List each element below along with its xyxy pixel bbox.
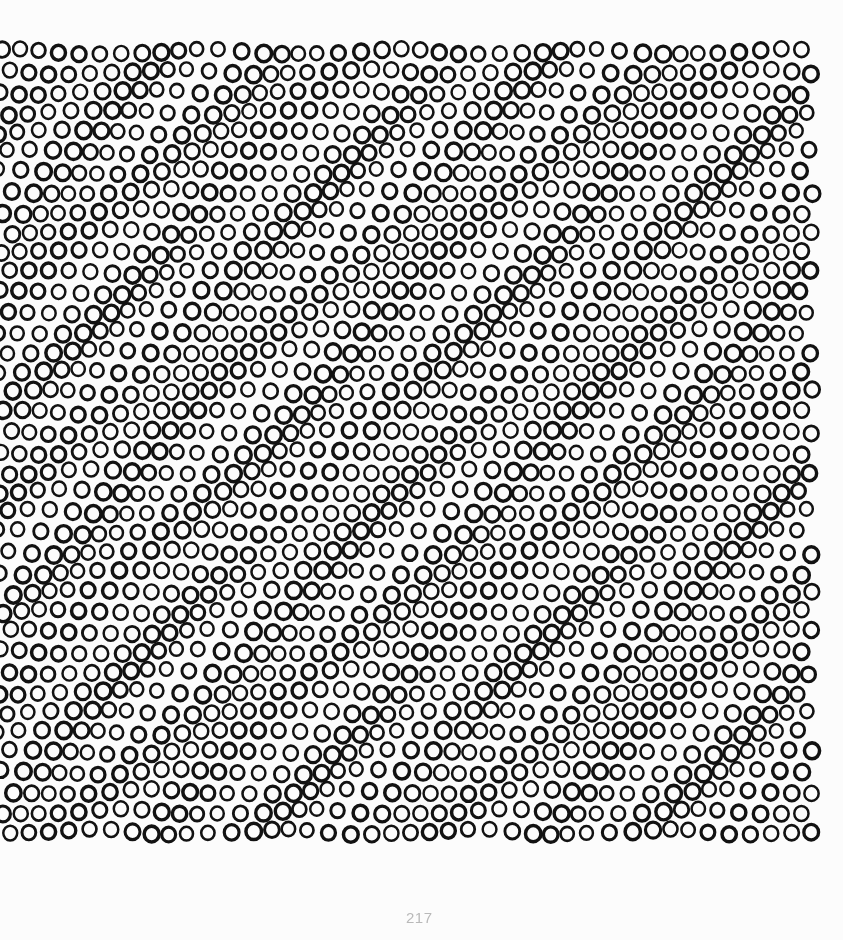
op-art-ring-field	[0, 0, 843, 940]
artwork-page: 217 Ring Field	[0, 0, 843, 940]
page-number: 217	[406, 910, 433, 925]
